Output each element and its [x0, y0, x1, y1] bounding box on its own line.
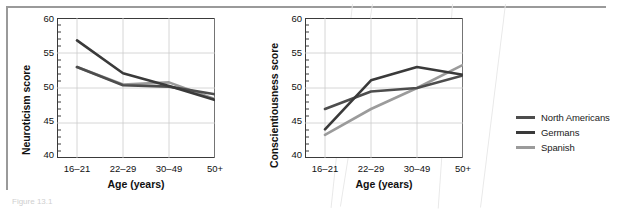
chart-0-xtick-0: 16–21 — [56, 163, 98, 174]
legend-swatch-germans — [516, 131, 535, 134]
page-border-left — [6, 6, 8, 190]
chart-1-xtick-1: 22–29 — [350, 163, 392, 174]
chart-0-ytick-40: 40 — [26, 149, 54, 160]
chart-0-plot-area — [57, 18, 215, 158]
chart-0-ytick-60: 60 — [26, 13, 54, 24]
chart-1-x-axis-label: Age (years) — [305, 178, 463, 190]
chart-1-ytick-50: 50 — [274, 81, 302, 92]
chart-0-ytick-45: 45 — [26, 115, 54, 126]
chart-1-ytick-45: 45 — [274, 115, 302, 126]
legend-item-germans: Germans — [516, 125, 624, 140]
chart-0-x-axis-label: Age (years) — [57, 178, 215, 190]
chart-0-ytick-50: 50 — [26, 81, 54, 92]
chart-1-xtick-3: 50+ — [442, 163, 484, 174]
legend-label-germans: Germans — [541, 127, 579, 138]
figure-caption: Figure 13.1 — [12, 197, 52, 206]
chart-legend: North Americans Germans Spanish — [516, 110, 624, 155]
legend-swatch-north-americans — [516, 116, 535, 119]
chart-0-y-axis-label: Neuroticism score — [20, 65, 32, 155]
chart-1-ytick-55: 55 — [274, 47, 302, 58]
figure-root: Neuroticism score 60 55 50 45 40 — [0, 0, 625, 210]
chart-0-ytick-55: 55 — [26, 47, 54, 58]
chart-1-plot-area — [305, 18, 463, 158]
legend-label-north-americans: North Americans — [541, 112, 610, 123]
legend-item-north-americans: North Americans — [516, 110, 624, 125]
chart-1-xtick-0: 16–21 — [304, 163, 346, 174]
chart-0-xtick-2: 30–49 — [148, 163, 190, 174]
legend-item-spanish: Spanish — [516, 140, 624, 155]
chart-1-ytick-40: 40 — [274, 149, 302, 160]
chart-1-ytick-60: 60 — [274, 13, 302, 24]
chart-0-xtick-1: 22–29 — [102, 163, 144, 174]
legend-swatch-spanish — [516, 146, 535, 149]
page-border-top — [6, 6, 606, 8]
scan-streak-4 — [480, 4, 506, 208]
legend-label-spanish: Spanish — [541, 142, 575, 153]
chart-1-xtick-2: 30–49 — [396, 163, 438, 174]
chart-0-xtick-3: 50+ — [194, 163, 236, 174]
